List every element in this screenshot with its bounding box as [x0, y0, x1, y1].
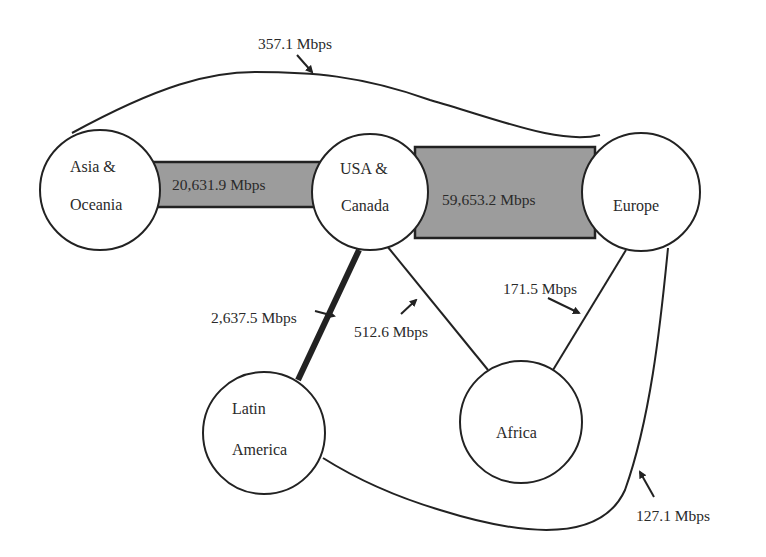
edge-label-usa-latam: 2,637.5 Mbps: [211, 309, 297, 326]
node-label: Oceania: [70, 196, 122, 213]
arrow-usa-africa: [401, 300, 416, 314]
node-label: Canada: [341, 197, 389, 214]
node-usa-canada: USA & Canada: [312, 134, 428, 250]
node-europe: Europe: [582, 133, 700, 251]
node-label: America: [232, 441, 287, 458]
edge-label-usa-africa: 512.6 Mbps: [354, 323, 428, 340]
arrow-europe-latam: [640, 472, 654, 497]
node-label: Europe: [613, 197, 659, 215]
edge-label-europe-africa: 171.5 Mbps: [503, 280, 577, 297]
node-label: USA &: [340, 160, 388, 177]
arrow-asia-europe: [297, 55, 312, 72]
node-label: Asia &: [70, 158, 116, 175]
node-label: Africa: [496, 424, 537, 441]
edge-europe-africa: [553, 250, 626, 370]
node-africa: Africa: [460, 361, 582, 483]
network-diagram: Asia & Oceania USA & Canada Europe Latin…: [0, 0, 766, 557]
node-asia-oceania: Asia & Oceania: [40, 130, 160, 250]
edge-label-europe-latam: 127.1 Mbps: [636, 507, 710, 524]
edge-label-asia-usa: 20,631.9 Mbps: [172, 176, 265, 193]
edge-asia-europe: [72, 72, 600, 137]
edge-label-usa-europe: 59,653.2 Mbps: [442, 191, 535, 208]
edge-label-asia-europe: 357.1 Mbps: [258, 35, 332, 52]
edge-usa-africa: [387, 246, 488, 370]
node-latin-america: Latin America: [203, 372, 325, 494]
node-label: Latin: [232, 400, 266, 417]
arrow-europe-africa: [548, 298, 579, 313]
